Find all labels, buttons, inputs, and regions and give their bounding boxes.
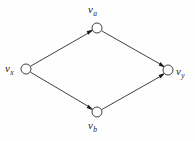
node-label-vx-subscript: x: [10, 68, 13, 77]
edge-vx-vb: [31, 72, 93, 110]
edge-line-vx-vb: [31, 72, 93, 109]
node-vx[interactable]: [21, 64, 31, 74]
node-label-va: va: [88, 4, 97, 15]
node-label-vx: vx: [5, 63, 13, 74]
edge-line-va-vy: [102, 31, 165, 67]
edge-line-vb-vy: [102, 74, 164, 109]
node-vb[interactable]: [92, 107, 102, 117]
node-label-va-subscript: a: [93, 9, 97, 18]
graph-canvas: [0, 0, 195, 141]
node-va[interactable]: [92, 23, 102, 33]
edge-va-vy: [102, 31, 165, 68]
graph-figure: va vx vy vb: [0, 0, 195, 141]
edge-line-vx-va: [31, 31, 93, 67]
edge-vb-vy: [102, 73, 165, 110]
node-label-vb: vb: [88, 120, 97, 131]
node-label-vy: vy: [176, 66, 184, 77]
edge-vx-va: [31, 29, 93, 66]
node-label-vb-subscript: b: [93, 125, 97, 134]
arrowhead-into-vy-from-vb: [159, 73, 165, 78]
node-vy[interactable]: [163, 65, 173, 75]
node-label-vy-subscript: y: [181, 71, 184, 80]
